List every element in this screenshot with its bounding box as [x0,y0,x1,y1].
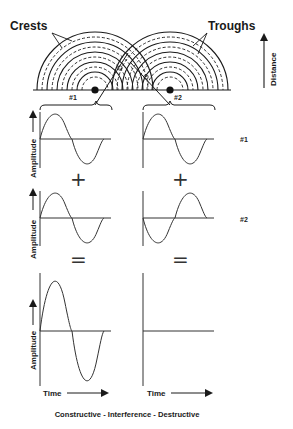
source-2-dot [166,86,173,93]
time-label-1: Time [43,389,62,398]
source-1-dot [91,86,98,93]
equals-sign-1: = [70,247,87,271]
row-2 [40,191,214,246]
interference-diagram: #1 #2 Crests Troughs Distance #1 Amplitu… [0,0,293,429]
pointer-line-2 [130,62,170,105]
amplitude-label-3: Amplitude [29,330,38,370]
plus-sign-1: + [70,167,87,191]
caption: Constructive - Interference - Destructiv… [55,410,200,419]
time-label-2: Time [147,389,166,398]
source-1-label: #1 [69,94,77,101]
brace-1 [40,101,112,110]
amplitude-label-2: Amplitude [29,219,38,259]
source-2-wavefronts [112,32,228,90]
row-result [40,273,214,386]
crests-label: Crests [10,19,48,33]
plus-sign-2: + [172,167,189,191]
amplitude-label-1: Amplitude [29,138,38,178]
brace-2 [143,101,215,110]
source-2-label: #2 [174,94,182,101]
row-1-label: #1 [240,136,248,143]
row-1 [40,112,214,168]
row-2-label: #2 [240,216,248,223]
troughs-label: Troughs [208,19,256,33]
distance-label: Distance [269,52,278,86]
source-1-wavefronts [37,32,153,90]
equals-sign-2: = [172,247,189,271]
